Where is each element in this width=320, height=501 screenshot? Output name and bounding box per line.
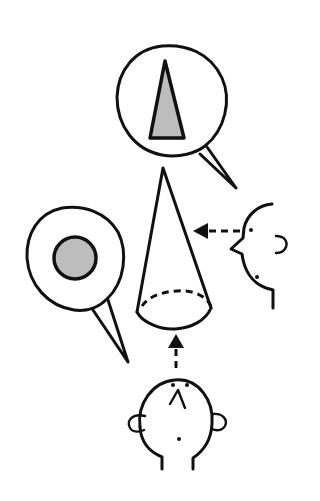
triangle-shape	[150, 61, 184, 138]
person-bottom-view	[129, 380, 226, 469]
circle-shape	[54, 237, 96, 279]
cone	[137, 168, 211, 329]
eye-icon	[249, 228, 253, 232]
diagram-canvas	[0, 0, 320, 501]
arrow-bottom-to-cone	[168, 334, 184, 368]
person-side-view	[231, 204, 287, 308]
cone-views-diagram	[0, 0, 320, 501]
speech-bubble-top-view	[27, 207, 128, 362]
eye-icon	[171, 383, 175, 387]
arrow-side-to-cone	[193, 223, 240, 239]
speech-bubble-side-view	[117, 46, 236, 188]
